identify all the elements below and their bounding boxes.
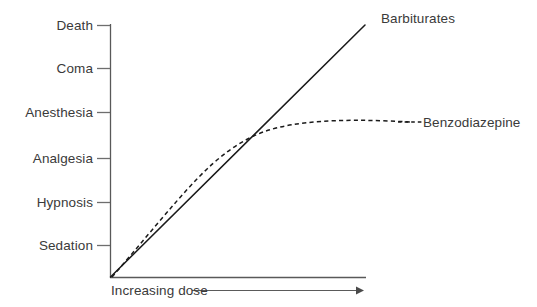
series-label-benzodiazepine: Benzodiazepine bbox=[423, 115, 520, 130]
y-axis-label-death: Death bbox=[0, 18, 93, 33]
dose-response-chart: Death Coma Anesthesia Analgesia Hypnosis… bbox=[0, 0, 537, 307]
series-label-barbiturates: Barbiturates bbox=[381, 11, 455, 26]
y-axis-label-coma: Coma bbox=[0, 61, 93, 76]
y-axis-label-sedation: Sedation bbox=[0, 238, 93, 253]
y-axis-label-anesthesia: Anesthesia bbox=[0, 105, 93, 120]
y-axis-label-hypnosis: Hypnosis bbox=[0, 195, 93, 210]
y-axis-label-analgesia: Analgesia bbox=[0, 151, 93, 166]
series-line-benzodiazepine bbox=[112, 120, 412, 277]
series-line-barbiturates bbox=[111, 25, 366, 277]
increasing-dose-arrow-head bbox=[356, 287, 364, 295]
x-axis-title: Increasing dose bbox=[111, 283, 208, 298]
